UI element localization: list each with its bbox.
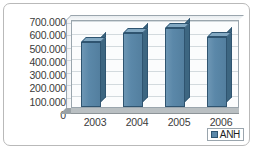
bar-2003[interactable] <box>81 37 101 107</box>
bar-2004[interactable] <box>123 28 143 107</box>
y-axis-tick-0: 0 <box>8 110 66 120</box>
y-axis-tick-600000: 600.000 <box>8 30 66 40</box>
y-axis-tick-500000: 500.000 <box>8 44 66 54</box>
bar-2005[interactable] <box>165 23 185 107</box>
y-axis-tick-200000: 200.000 <box>8 83 66 93</box>
bar-front-face <box>123 33 143 107</box>
x-axis-tick-2005: 2005 <box>159 116 199 128</box>
x-axis-tick-2003: 2003 <box>75 116 115 128</box>
chart-legend[interactable]: ANH <box>207 128 244 141</box>
bar-2006[interactable] <box>207 32 227 107</box>
chart-card: 700.000600.000500.000400.000300.000200.0… <box>3 3 250 146</box>
x-axis-tick-2006: 2006 <box>201 116 241 128</box>
x-axis-tick-2004: 2004 <box>117 116 157 128</box>
y-axis-tick-100000: 100.000 <box>8 97 66 107</box>
legend-label-anh: ANH <box>220 130 240 140</box>
y-axis-tick-300000: 300.000 <box>8 70 66 80</box>
bar-front-face <box>207 37 227 107</box>
y-axis-tick-700000: 700.000 <box>8 17 66 27</box>
bar-front-face <box>81 42 101 107</box>
bar-side-face <box>101 32 106 102</box>
gridline-700000 <box>72 21 238 22</box>
bar-side-face <box>227 27 232 102</box>
y-axis-labels: 700.000600.000500.000400.000300.000200.0… <box>8 17 66 110</box>
bar-side-face <box>143 23 148 102</box>
plot-area <box>71 20 239 108</box>
bar-side-face <box>185 18 190 102</box>
legend-swatch-icon <box>211 131 218 138</box>
y-axis-tick-400000: 400.000 <box>8 57 66 67</box>
bar-front-face <box>165 28 185 107</box>
plot-floor-front <box>71 108 239 114</box>
